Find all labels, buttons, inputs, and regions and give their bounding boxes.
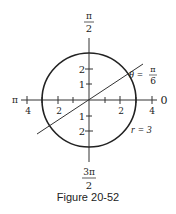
label-pi-over-2-num: π — [86, 11, 92, 21]
vtick-label-down-2: 2 — [79, 126, 85, 137]
htick-label-right-4: 4 — [149, 106, 155, 116]
figure-caption: Figure 20-52 — [0, 191, 176, 203]
label-pi: π — [12, 95, 18, 105]
label-3pi-over-2-den: 2 — [86, 180, 92, 191]
theta-label-den: 6 — [150, 76, 156, 86]
htick-label-left-4: 4 — [25, 106, 31, 116]
theta-label-num: π — [150, 65, 155, 74]
label-3pi-over-2-num: 3π — [83, 167, 95, 177]
theta-label-prefix: θ = — [129, 69, 143, 80]
vtick-label-up-1: 1 — [79, 79, 85, 90]
htick-label-left-2: 2 — [56, 106, 62, 116]
label-pi-over-2-den: 2 — [86, 23, 92, 34]
polar-figure: π 2 3π 2 π 0 4 2 2 4 2 1 1 2 θ = π 6 r =… — [0, 0, 176, 214]
circle-label: r = 3 — [131, 124, 152, 135]
line-theta-pi-over-6 — [37, 64, 143, 134]
label-zero: 0 — [161, 94, 168, 107]
vtick-label-up-2: 2 — [79, 64, 85, 75]
htick-label-right-2: 2 — [118, 106, 124, 116]
polar-graph: π 2 3π 2 π 0 4 2 2 4 2 1 1 2 θ = π 6 r =… — [0, 0, 176, 214]
vtick-label-down-1: 1 — [79, 111, 85, 122]
